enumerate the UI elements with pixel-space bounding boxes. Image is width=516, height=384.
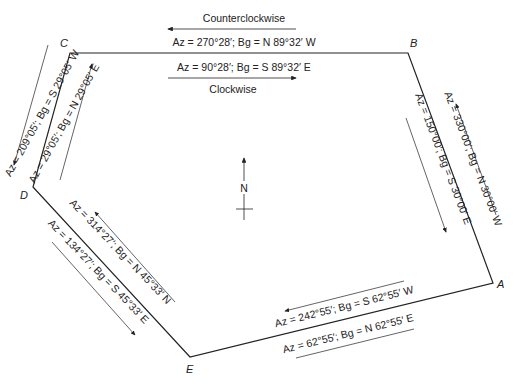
point-d-label: D xyxy=(20,189,28,201)
north-arrow-icon: N xyxy=(236,158,253,220)
point-a-label: A xyxy=(496,278,504,290)
course-bc-label: Az = 270°28′; Bg = N 89°32′ W xyxy=(172,36,315,48)
traverse-diagram: C B A E D Counterclockwise Az = 270°28′;… xyxy=(0,0,516,384)
counterclockwise-label: Counterclockwise xyxy=(203,12,285,24)
course-ba-label: Az = 150°00′; Bg = S 30°00′ E xyxy=(413,91,474,226)
course-ab-label: Az = 330°00′; Bg = N 30°00′ W xyxy=(442,90,505,228)
point-e-label: E xyxy=(186,363,194,375)
point-c-label: C xyxy=(60,37,68,49)
course-cb-label: Az = 90°28′; Bg = S 89°32′ E xyxy=(177,61,311,73)
clockwise-label: Clockwise xyxy=(209,83,256,95)
point-b-label: B xyxy=(410,37,417,49)
ed-arrow-icon xyxy=(95,212,175,302)
north-label: N xyxy=(240,182,248,194)
